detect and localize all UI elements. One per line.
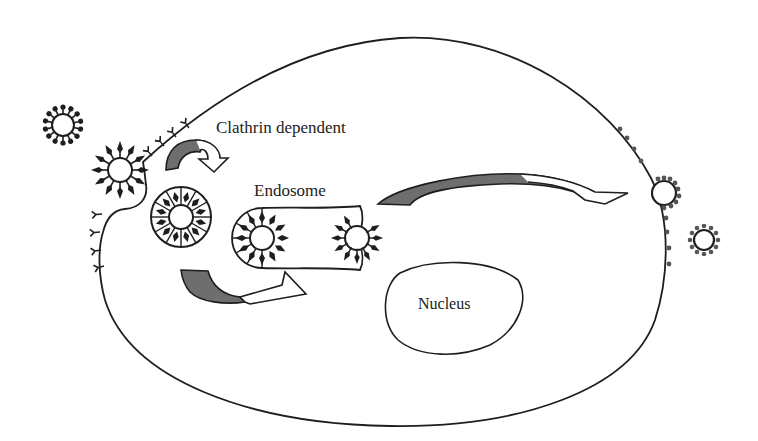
virus-in-clathrin-pit (91, 141, 149, 199)
endocytosis-diagram: Clathrin dependent Endosome Nucleus (0, 0, 758, 441)
long-arrow-to-membrane (378, 174, 628, 205)
released-virus-particle (688, 224, 721, 257)
diagram-canvas (0, 0, 758, 441)
label-nucleus: Nucleus (418, 296, 470, 312)
label-endosome: Endosome (254, 182, 326, 199)
clathrin-coated-vesicle (151, 187, 211, 247)
curved-arrow-to-vesicle (166, 140, 228, 172)
curved-arrow-to-endosome (181, 270, 306, 304)
endosome-with-viruses (232, 206, 383, 270)
label-clathrin-dependent: Clathrin dependent (216, 119, 346, 136)
virus-particle-extracellular (42, 104, 83, 145)
membrane-receptors-left (90, 211, 105, 272)
virus-budding-at-membrane (652, 176, 681, 211)
